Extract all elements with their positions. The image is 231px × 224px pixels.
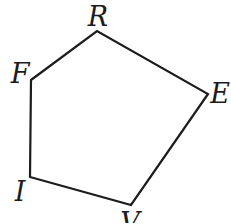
pentagon-figure: RFEVI [0, 0, 231, 223]
vertex-label-I: I [14, 176, 27, 207]
vertex-label-F: F [10, 58, 31, 89]
vertex-label-E: E [209, 78, 230, 109]
vertex-label-R: R [87, 1, 108, 32]
vertex-label-V: V [120, 207, 142, 224]
pentagon-svg: RFEVI [0, 0, 231, 223]
